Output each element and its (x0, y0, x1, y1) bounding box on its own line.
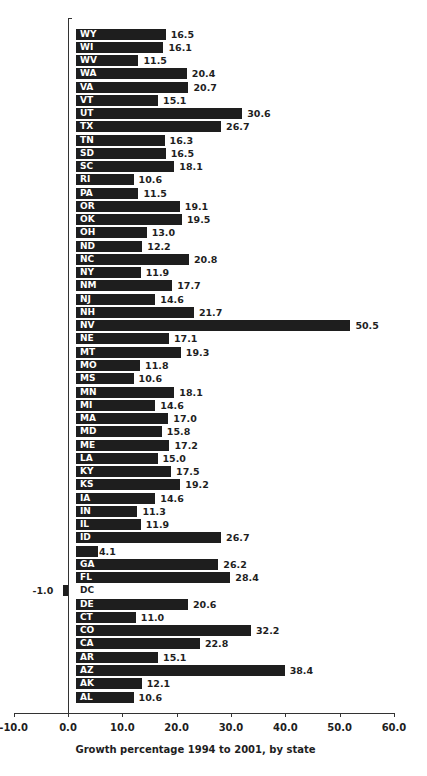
zero-axis-line (68, 18, 69, 713)
category-label: CT (80, 612, 93, 623)
value-label: 18.1 (179, 161, 202, 172)
category-label: KS (80, 479, 93, 490)
value-label: 19.3 (186, 347, 209, 358)
category-label: TN (80, 135, 94, 146)
value-label: 19.5 (187, 214, 210, 225)
value-label: 11.8 (145, 360, 168, 371)
value-label: 11.3 (142, 506, 165, 517)
value-label: 10.6 (139, 373, 162, 384)
x-tick-label: 20.0 (164, 722, 189, 733)
value-label: 13.0 (152, 227, 175, 238)
category-label: LA (80, 453, 93, 464)
value-label: 15.0 (163, 453, 186, 464)
category-label: MO (80, 360, 97, 371)
category-label: MA (80, 413, 96, 424)
bar-nv (76, 320, 350, 331)
category-label: AK (80, 678, 94, 689)
value-label: 14.6 (160, 493, 183, 504)
bar-ga (76, 559, 218, 570)
value-label: 26.2 (223, 559, 246, 570)
category-label: ND (80, 241, 95, 252)
bar-co (76, 625, 251, 636)
x-tick (285, 713, 286, 717)
x-tick-label: 50.0 (327, 722, 352, 733)
category-label: TX (80, 121, 93, 132)
value-label: -1.0 (33, 585, 54, 596)
category-label: NE (80, 333, 94, 344)
category-label: FL (80, 572, 92, 583)
value-label: 16.5 (171, 29, 194, 40)
category-label: IN (80, 506, 91, 517)
x-tick-label: 10.0 (110, 722, 135, 733)
bar-dc (63, 585, 68, 596)
bar-fl (76, 572, 230, 583)
category-label: MS (80, 373, 95, 384)
value-label: 16.3 (170, 135, 193, 146)
value-label: 11.5 (143, 55, 166, 66)
value-label: 11.9 (146, 519, 169, 530)
x-tick-label: 0.0 (59, 722, 77, 733)
value-label: 20.6 (193, 599, 216, 610)
category-label: NH (80, 307, 95, 318)
category-label: VA (80, 82, 93, 93)
category-label: WV (80, 55, 97, 66)
value-label: 26.7 (226, 121, 249, 132)
value-label: 17.0 (173, 413, 196, 424)
value-label: 22.8 (205, 638, 228, 649)
value-label: 10.6 (139, 174, 162, 185)
value-label: 17.7 (177, 280, 200, 291)
x-tick (340, 713, 341, 717)
bar-tx (76, 121, 221, 132)
value-label: 16.5 (171, 148, 194, 159)
value-label: 18.1 (179, 387, 202, 398)
category-label: MI (80, 400, 92, 411)
bar-az (76, 665, 285, 676)
category-label: IL (80, 519, 89, 530)
category-label: NM (80, 280, 97, 291)
category-label: IA (80, 493, 90, 504)
category-label: VT (80, 95, 93, 106)
category-label: WA (80, 68, 97, 79)
x-tick-label: -10.0 (0, 722, 28, 733)
bar-ca (76, 638, 200, 649)
value-label: 14.6 (160, 400, 183, 411)
category-label: OK (80, 214, 95, 225)
value-label: 28.4 (235, 572, 258, 583)
category-label: WY (80, 29, 96, 40)
category-label: WI (80, 42, 93, 53)
x-tick-label: 60.0 (382, 722, 407, 733)
value-label: 26.7 (226, 532, 249, 543)
value-label: 20.7 (193, 82, 216, 93)
category-label: AZ (80, 665, 94, 676)
category-label: SD (80, 148, 94, 159)
value-label: 10.6 (139, 692, 162, 703)
value-label: 19.2 (185, 479, 208, 490)
value-label: 32.2 (256, 625, 279, 636)
value-label: 15.1 (163, 95, 186, 106)
value-label: 30.6 (247, 108, 270, 119)
category-label: KY (80, 466, 94, 477)
x-tick (14, 713, 15, 717)
category-label: CA (80, 638, 94, 649)
x-axis-title-text: Growth percentage 1994 to 2001, by state (75, 744, 315, 755)
value-label: 38.4 (290, 665, 313, 676)
category-label: NY (80, 267, 94, 278)
x-tick (177, 713, 178, 717)
category-label: NJ (80, 294, 91, 305)
category-label: OH (80, 227, 95, 238)
value-label: 19.1 (185, 201, 208, 212)
x-tick (122, 713, 123, 717)
category-label: MD (80, 426, 96, 437)
value-label: 15.8 (167, 426, 190, 437)
category-label: PA (80, 188, 93, 199)
value-label: 17.5 (176, 466, 199, 477)
value-label: 4.1 (99, 546, 116, 557)
x-axis-line (14, 713, 395, 714)
bar-ut (76, 108, 242, 119)
bar-id (76, 532, 221, 543)
x-axis-title: Growth percentage 1994 to 2001, by state (0, 744, 427, 755)
value-label: 16.1 (168, 42, 191, 53)
value-label: 20.8 (194, 254, 217, 265)
category-label: SC (80, 161, 93, 172)
value-label: 11.5 (143, 188, 166, 199)
